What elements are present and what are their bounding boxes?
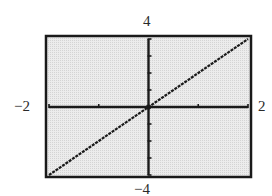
graph-window	[0, 0, 272, 196]
